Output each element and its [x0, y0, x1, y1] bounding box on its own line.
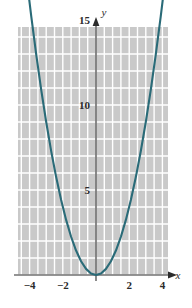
- y-axis-label: y: [101, 6, 107, 18]
- x-tick-label: −2: [57, 279, 69, 291]
- y-tick-label: 10: [79, 99, 91, 111]
- graph-figure: −4−224 51015 x y: [0, 0, 192, 308]
- x-tick-label: 4: [160, 279, 166, 291]
- parabola-graph: −4−224 51015 x y: [0, 0, 192, 308]
- x-tick-label: −4: [24, 279, 36, 291]
- x-tick-label: 2: [126, 279, 132, 291]
- y-tick-label: 15: [79, 14, 91, 26]
- x-axis-label: x: [175, 269, 181, 281]
- y-tick-label: 5: [85, 184, 91, 196]
